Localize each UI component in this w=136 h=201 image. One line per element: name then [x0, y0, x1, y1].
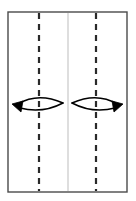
diagram-canvas: [0, 0, 136, 201]
folding-diagram: Folding diagram: rectangular sheet with …: [0, 0, 136, 201]
